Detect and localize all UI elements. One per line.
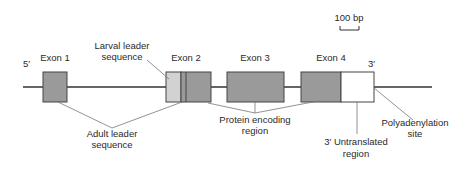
protein-encoding-pointer-3 [255, 101, 318, 113]
exon-3-label: Exon 3 [240, 52, 270, 63]
protein-encoding-label-line1: Protein encoding [219, 114, 290, 125]
adult-leader-label-line1: Adult leader [87, 128, 138, 139]
polya-label-line1: Polyadenylation [381, 117, 448, 128]
exon-2-larval-leader [166, 72, 181, 102]
protein-encoding-label-line2: region [242, 125, 268, 136]
three-prime-label: 3′ [368, 58, 375, 69]
gene-structure-diagram: 100 bp 5′ 3′ Exon 1 Exon 2 Exon 3 Exon 4… [0, 0, 474, 171]
protein-encoding-pointer-1 [208, 103, 255, 113]
larval-leader-pointer [147, 60, 169, 79]
exon-1-box [43, 72, 67, 102]
exon-4-utr [341, 72, 374, 102]
utr-label-line2: region [343, 148, 369, 159]
exon-4-coding [301, 72, 341, 102]
polya-label-line2: site [408, 128, 423, 139]
scale-bar [340, 26, 359, 30]
five-prime-label: 5′ [23, 58, 30, 69]
adult-leader-pointer-1 [58, 102, 112, 128]
exon-3-box [227, 72, 284, 102]
adult-leader-label-line2: sequence [91, 139, 132, 150]
larval-leader-label-line2: sequence [101, 51, 142, 62]
adult-leader-pointer-2 [112, 102, 182, 128]
utr-label-line1: 3′ Untranslated [324, 136, 388, 147]
exon-2-label: Exon 2 [171, 52, 201, 63]
exon-4-label: Exon 4 [316, 52, 346, 63]
exon-1-label: Exon 1 [40, 52, 70, 63]
scale-bar-label: 100 bp [334, 12, 363, 23]
larval-leader-label-line1: Larval leader [95, 40, 150, 51]
polya-pointer [374, 88, 413, 120]
